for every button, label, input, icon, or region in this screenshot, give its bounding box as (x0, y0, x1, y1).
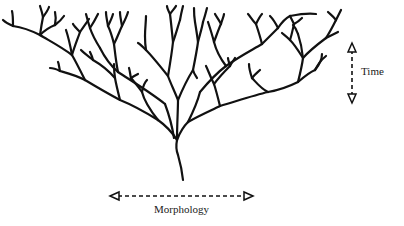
branching-tree (3, 6, 341, 180)
time-axis-label: Time (361, 65, 384, 77)
morphology-axis-arrow (110, 192, 253, 200)
morphology-axis-label: Morphology (154, 203, 209, 215)
time-axis-arrow (348, 43, 356, 103)
tree-diagram (0, 0, 404, 226)
